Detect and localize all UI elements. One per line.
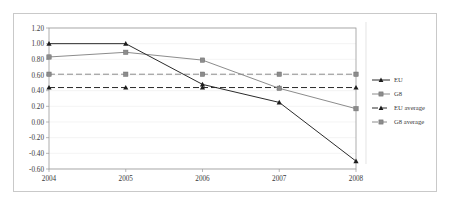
series-marker-g8-average: [354, 72, 358, 76]
y-axis-tick-label: -0.20: [29, 134, 44, 142]
y-axis-tick-label: -0.60: [29, 166, 44, 174]
line-chart: 1.201.000.800.600.400.200.00-0.20-0.40-0…: [14, 14, 438, 193]
series-marker-g8: [124, 50, 128, 54]
x-axis-tick-label: 2008: [349, 175, 364, 183]
series-marker-eu-average: [353, 85, 358, 90]
series-marker-g8-average: [124, 72, 128, 76]
series-marker-g8-average: [47, 72, 51, 76]
series-marker-eu: [200, 82, 205, 87]
y-axis-tick-label: 0.20: [31, 103, 44, 111]
legend-label: EU: [394, 76, 403, 83]
x-axis-tick-label: 2007: [272, 175, 287, 183]
legend-label: G8: [394, 90, 403, 97]
legend-label: EU average: [394, 104, 425, 111]
legend-label: G8 average: [394, 118, 424, 125]
x-axis-tick-label: 2004: [42, 175, 57, 183]
x-axis-tick-label: 2006: [195, 175, 210, 183]
series-marker-g8: [47, 55, 51, 59]
series-marker-g8-average: [277, 72, 281, 76]
y-axis-tick-label: -0.40: [29, 150, 44, 158]
y-axis-tick-label: 1.00: [31, 40, 44, 48]
chart-figure: 1.201.000.800.600.400.200.00-0.20-0.40-0…: [13, 13, 437, 192]
legend-marker: [379, 120, 383, 124]
legend-marker: [379, 92, 383, 96]
y-axis-tick-label: 0.00: [31, 119, 44, 127]
legend-entry-g8-average[interactable]: G8 average: [372, 118, 424, 125]
legend-entry-g8[interactable]: G8: [372, 90, 403, 97]
series-marker-g8-average: [200, 72, 204, 76]
plot-area: 1.201.000.800.600.400.200.00-0.20-0.40-0…: [14, 14, 438, 193]
series-marker-g8: [277, 86, 281, 90]
y-axis-tick-label: 0.80: [31, 56, 44, 64]
y-axis-tick-label: 0.60: [31, 72, 44, 80]
y-axis-tick-label: 1.20: [31, 25, 44, 33]
series-marker-g8: [200, 58, 204, 62]
legend-entry-eu-average[interactable]: EU average: [372, 104, 425, 111]
y-axis-tick-label: 0.40: [31, 87, 44, 95]
series-marker-g8: [354, 106, 358, 110]
plot-frame: [49, 28, 356, 169]
x-axis-tick-label: 2005: [119, 175, 134, 183]
legend-entry-eu[interactable]: EU: [372, 76, 403, 83]
